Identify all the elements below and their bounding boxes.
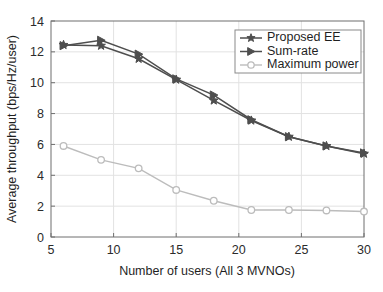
legend-label: Maximum power — [267, 57, 359, 71]
y-tick-label: 8 — [37, 107, 44, 121]
circle-marker-icon — [361, 208, 368, 215]
x-tick-label: 10 — [107, 243, 121, 257]
x-tick-label: 15 — [169, 243, 183, 257]
chart-legend[interactable]: Proposed EESum-rateMaximum power — [235, 30, 361, 73]
y-tick-label: 4 — [37, 169, 44, 183]
y-tick-label: 6 — [37, 138, 44, 152]
x-tick-label: 5 — [48, 243, 55, 257]
y-tick-label: 12 — [30, 45, 44, 59]
circle-marker-icon — [323, 207, 330, 214]
x-tick-label: 20 — [232, 243, 246, 257]
circle-marker-icon — [248, 62, 254, 68]
y-tick-label: 2 — [37, 200, 44, 214]
circle-marker-icon — [286, 207, 293, 214]
y-tick-label: 0 — [37, 231, 44, 245]
circle-marker-icon — [210, 197, 217, 204]
x-axis-title: Number of users (All 3 MVNOs) — [119, 264, 295, 278]
chart-plot-area: 02468101214 51015202530 Number of users … — [0, 0, 383, 292]
x-tick-label: 25 — [294, 243, 308, 257]
legend-label: Sum-rate — [267, 44, 318, 58]
circle-marker-icon — [98, 157, 105, 164]
y-tick-label: 10 — [30, 76, 44, 90]
circle-marker-icon — [60, 143, 67, 150]
circle-marker-icon — [135, 165, 142, 172]
chart-figure: 02468101214 51015202530 Number of users … — [0, 0, 383, 292]
circle-marker-icon — [248, 207, 255, 214]
legend-label: Proposed EE — [267, 30, 341, 44]
circle-marker-icon — [173, 187, 180, 194]
x-tick-label: 30 — [357, 243, 371, 257]
y-axis-title: Average throughput (bps/Hz/user) — [5, 35, 19, 223]
y-tick-label: 14 — [30, 15, 44, 29]
